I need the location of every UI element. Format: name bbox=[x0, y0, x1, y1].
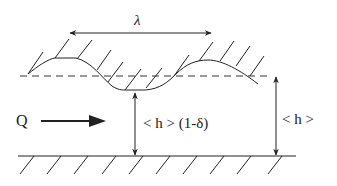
mean-gap-label: < h > bbox=[282, 111, 314, 127]
lower-wall-hatching bbox=[20, 156, 282, 174]
channel-diagram: λ Q < h > (1-δ) < bbox=[0, 0, 337, 186]
flow-arrow-icon bbox=[41, 115, 106, 127]
upper-wall-hatching bbox=[28, 39, 264, 90]
upper-wall bbox=[28, 58, 258, 90]
wavelength-label: λ bbox=[133, 12, 141, 28]
min-gap-label: < h > (1-δ) bbox=[143, 115, 208, 132]
flow-label: Q bbox=[16, 112, 28, 129]
